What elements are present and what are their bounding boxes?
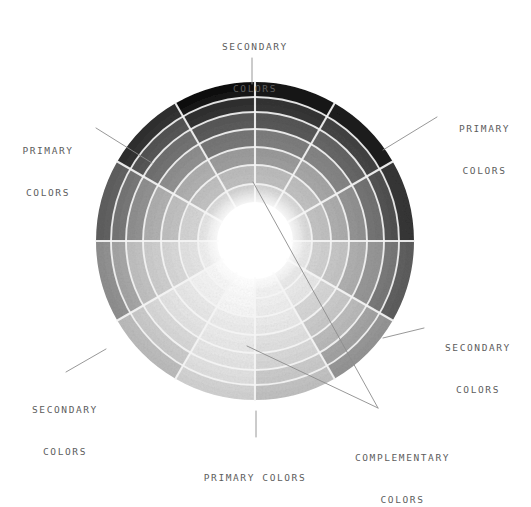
label-line-2: COLORS — [2, 186, 94, 200]
label-secondary-colors-top: SECONDARY COLORS — [185, 12, 325, 124]
label-primary-colors-right: PRIMARY COLORS — [440, 94, 529, 206]
label-line-1: SECONDARY — [14, 403, 116, 417]
label-secondary-colors-right: SECONDARY COLORS — [427, 313, 529, 425]
leader-secondary-left — [66, 349, 106, 372]
leader-secondary-right — [383, 328, 424, 338]
label-line-1: PRIMARY COLORS — [180, 471, 330, 485]
label-line-1: PRIMARY — [2, 144, 94, 158]
leader-primary-right — [383, 117, 437, 150]
label-line-2: COLORS — [440, 164, 529, 178]
label-line-2: COLORS — [14, 445, 116, 459]
label-primary-colors-left: PRIMARY COLORS — [2, 116, 94, 228]
label-line-1: SECONDARY — [185, 40, 325, 54]
label-complementary-colors: COMPLEMENTARY COLORS — [340, 423, 465, 507]
label-line-2: COLORS — [340, 493, 465, 507]
center-hole — [203, 187, 307, 291]
label-line-1: SECONDARY — [427, 341, 529, 355]
label-line-2: COLORS — [427, 383, 529, 397]
label-secondary-colors-left: SECONDARY COLORS — [14, 375, 116, 487]
label-line-1: COMPLEMENTARY — [340, 451, 465, 465]
label-primary-colors-bottom: PRIMARY COLORS — [180, 443, 330, 507]
label-line-2: COLORS — [185, 82, 325, 96]
label-line-1: PRIMARY — [440, 122, 529, 136]
